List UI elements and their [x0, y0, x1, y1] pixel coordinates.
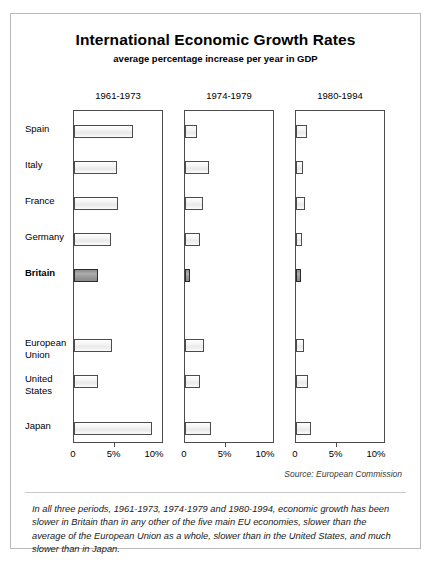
bar [74, 125, 133, 138]
axis-tick-label: 10% [359, 448, 393, 459]
bar [185, 233, 200, 246]
bar [296, 422, 311, 435]
bar [296, 233, 302, 246]
axis-tick-label: 10% [137, 448, 171, 459]
x-axis: 05%10% [184, 443, 274, 463]
bar [74, 422, 152, 435]
bar [185, 375, 200, 388]
bar [74, 161, 117, 174]
bar [185, 125, 197, 138]
chart-panel [184, 110, 274, 443]
axis-tick [336, 443, 337, 447]
chart-panel [295, 110, 385, 443]
bar [296, 125, 307, 138]
bar [185, 339, 204, 352]
bar [296, 339, 304, 352]
panel-header: 1961-1973 [73, 90, 163, 101]
axis-tick-label: 5% [208, 448, 242, 459]
chart-subtitle: average percentage increase per year in … [11, 53, 420, 64]
axis-tick [225, 443, 226, 447]
panel-header: 1974-1979 [184, 90, 274, 101]
axis-tick-label: 0 [278, 448, 312, 459]
bar [74, 197, 118, 210]
axis-tick [114, 443, 115, 447]
source-note: Source: European Commission [284, 469, 402, 479]
x-axis: 05%10% [295, 443, 385, 463]
panel-header: 1980-1994 [295, 90, 385, 101]
chart-panel [73, 110, 163, 443]
bar [74, 269, 98, 282]
bar [185, 161, 209, 174]
bar [296, 161, 303, 174]
bar [296, 375, 308, 388]
axis-tick-label: 0 [56, 448, 90, 459]
caption-box: In all three periods, 1961-1973, 1974-19… [25, 492, 406, 551]
bar [74, 339, 112, 352]
bar [185, 269, 190, 282]
x-axis: 05%10% [73, 443, 163, 463]
bar [185, 197, 203, 210]
bar [185, 422, 211, 435]
axis-tick-label: 0 [167, 448, 201, 459]
chart-title: International Economic Growth Rates [11, 31, 420, 49]
bar [74, 233, 111, 246]
axis-tick-label: 5% [319, 448, 353, 459]
axis-tick-label: 10% [248, 448, 282, 459]
axis-tick-label: 5% [97, 448, 131, 459]
bar [296, 197, 305, 210]
bar [74, 375, 98, 388]
bar [296, 269, 301, 282]
caption-text: In all three periods, 1961-1973, 1974-19… [32, 503, 400, 557]
chart-figure: International Economic Growth Rates aver… [10, 13, 421, 549]
